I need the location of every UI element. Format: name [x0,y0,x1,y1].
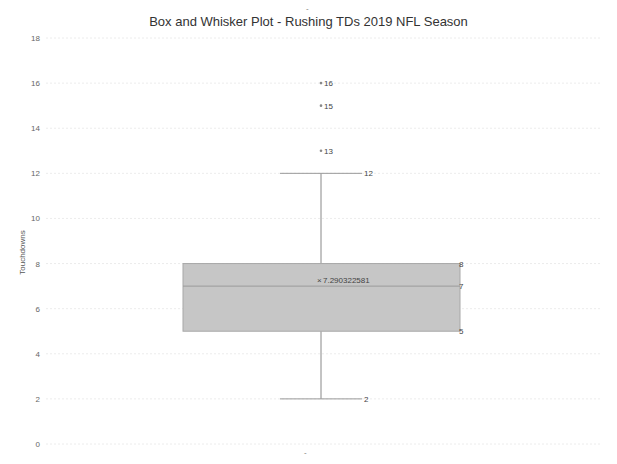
y-tick-label: 10 [31,214,40,223]
y-tick-label: 16 [31,79,40,88]
mean-label: 7.290322581 [323,276,370,285]
outlier-label: 13 [324,147,333,156]
y-tick-label: 14 [31,124,40,133]
outlier-point [320,149,323,152]
y-tick-label: 8 [36,260,41,269]
outlier-label: 16 [324,79,333,88]
max-label: 12 [364,169,373,178]
iqr-box [183,264,460,332]
mean-marker: × [317,276,322,285]
q3-label: 8 [459,260,464,269]
y-tick-label: 0 [36,440,41,449]
q1-label: 5 [459,327,464,336]
median-label: 7 [459,282,464,291]
outlier-point [320,104,323,107]
y-tick-label: 4 [36,350,41,359]
plot-area: 024681012141618×7.290322581122875131516 [0,0,617,464]
y-tick-label: 2 [36,395,41,404]
min-label: 2 [364,395,369,404]
y-tick-label: 6 [36,305,41,314]
outlier-label: 15 [324,102,333,111]
y-tick-label: 12 [31,169,40,178]
y-tick-label: 18 [31,34,40,43]
outlier-point [320,82,323,85]
